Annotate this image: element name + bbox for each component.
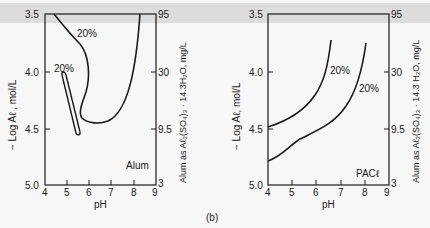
y-tick: 4.0 — [25, 67, 39, 78]
x-axis-label: pH — [94, 199, 107, 210]
x-tick: 7 — [338, 187, 344, 198]
curve-20pct-loop — [62, 72, 80, 135]
figure-caption: (b) — [206, 212, 218, 223]
curve-label: 20% — [330, 65, 350, 76]
plot-frame — [268, 14, 389, 185]
x-tick: 6 — [313, 187, 319, 198]
y-right-tick: 9.5 — [391, 124, 405, 135]
x-tick: 8 — [362, 187, 368, 198]
y-right-tick: 3 — [158, 178, 164, 189]
panel-label: PACℓ — [356, 168, 380, 179]
y-tick: 4.5 — [249, 124, 263, 135]
curve-label: 20% — [54, 63, 74, 74]
chart-figure: 3.5 4.0 4.5 5.0 95 30 9.5 3 4 5 6 7 8 9 … — [0, 0, 430, 228]
x-tick: 7 — [108, 187, 114, 198]
y-tick: 5.0 — [249, 180, 263, 191]
y-tick: 5.0 — [25, 180, 39, 191]
y-right-axis-label: Alum as Aℓ₂(SO₄)₃ · 14.3 H₂O, mg/L — [411, 40, 421, 183]
y-right-tick: 30 — [158, 67, 170, 78]
curve-label: 20% — [77, 28, 97, 39]
y-right-tick: 9.5 — [158, 124, 172, 135]
chart-left-alum: 3.5 4.0 4.5 5.0 95 30 9.5 3 4 5 6 7 8 9 … — [7, 9, 188, 210]
panel-label: Alum — [126, 160, 149, 171]
x-tick: 5 — [289, 187, 295, 198]
y-right-tick: 95 — [158, 9, 170, 20]
curve-20pct-upper — [268, 40, 331, 127]
y-right-tick: 3 — [391, 178, 397, 189]
y-tick: 4.0 — [249, 67, 263, 78]
x-axis-label: pH — [322, 199, 335, 210]
y-axis-label: − Log Aℓ, mol/L — [231, 82, 242, 150]
x-tick: 9 — [152, 187, 158, 198]
y-right-axis-label: Alum as Aℓ₂(SO₄)₃ · 14.3H₂O, mg/L — [178, 42, 188, 183]
chart-right-pacl: 3.5 4.0 4.5 5.0 95 30 9.5 3 4 5 6 7 8 9 … — [231, 9, 421, 210]
y-tick: 3.5 — [249, 9, 263, 20]
curve-label: 20% — [359, 83, 379, 94]
y-right-tick: 95 — [391, 9, 403, 20]
curve-20pct-lower — [268, 43, 366, 161]
x-tick: 9 — [384, 187, 390, 198]
y-right-tick: 30 — [391, 67, 403, 78]
y-tick: 3.5 — [25, 9, 39, 20]
y-tick: 4.5 — [25, 124, 39, 135]
x-tick: 4 — [265, 187, 271, 198]
x-tick: 5 — [64, 187, 70, 198]
x-tick: 6 — [86, 187, 92, 198]
y-axis-label: − Log Aℓ , mol/L — [7, 79, 18, 150]
x-tick: 4 — [42, 187, 48, 198]
x-tick: 8 — [131, 187, 137, 198]
